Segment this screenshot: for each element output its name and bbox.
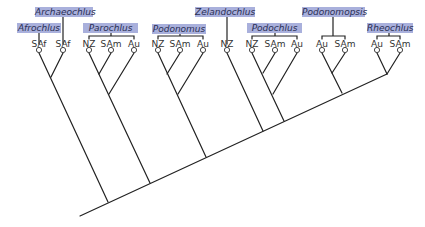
branch bbox=[252, 53, 284, 121]
region-label: Au bbox=[128, 39, 140, 49]
branch bbox=[39, 53, 108, 202]
taxon-label-podonomus: Podonomus bbox=[152, 24, 206, 34]
region-label: NZ bbox=[246, 39, 259, 49]
branch bbox=[273, 53, 297, 94]
branch bbox=[109, 53, 134, 94]
branch bbox=[158, 53, 206, 157]
branch bbox=[332, 53, 345, 73]
branch bbox=[387, 53, 400, 74]
region-label: NZ bbox=[221, 39, 234, 49]
region-label: NZ bbox=[152, 39, 165, 49]
taxon-label-afrochlus: Afrochlus bbox=[17, 23, 61, 33]
branch bbox=[89, 53, 150, 183]
region-label: NZ bbox=[83, 39, 96, 49]
region-label: Au bbox=[316, 39, 328, 49]
branch bbox=[99, 53, 111, 74]
region-label: SAm bbox=[335, 39, 356, 49]
podonomopsis-bracket bbox=[322, 17, 345, 39]
branch bbox=[377, 53, 387, 74]
taxon-label-rheochlus: Rheochlus bbox=[367, 23, 413, 33]
region-label: SAf bbox=[56, 39, 71, 49]
taxon-label-podochlus: Podochlus bbox=[247, 23, 302, 33]
region-label: Au bbox=[291, 39, 303, 49]
region-label: SAm bbox=[265, 39, 286, 49]
taxon-label-podonomopsis: Podonomopsis bbox=[302, 7, 365, 17]
region-label: SAf bbox=[32, 39, 47, 49]
region-label: Au bbox=[371, 39, 383, 49]
branch bbox=[263, 53, 275, 73]
region-label: SAm bbox=[170, 39, 191, 49]
region-label: SAm bbox=[101, 39, 122, 49]
taxon-label-zelandochlus: Zelandochlus bbox=[195, 7, 255, 17]
branch bbox=[178, 53, 203, 94]
taxon-label-archaeochlus: Archaeochlus bbox=[35, 7, 93, 17]
region-label: Au bbox=[197, 39, 209, 49]
branch bbox=[51, 53, 63, 77]
branch bbox=[167, 53, 180, 74]
phylogeny-diagram: ArchaeochlusAfrochlusParochlusPodonomusZ… bbox=[0, 0, 425, 227]
tree-lines bbox=[0, 0, 425, 227]
taxon-label-parochlus: Parochlus bbox=[83, 23, 138, 33]
region-label: SAm bbox=[390, 39, 411, 49]
tree-spine bbox=[80, 74, 387, 216]
